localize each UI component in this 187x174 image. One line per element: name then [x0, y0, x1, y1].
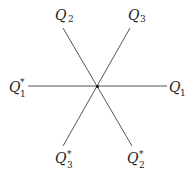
- svg-text:Q: Q: [127, 150, 139, 166]
- label-q2: Q 2: [55, 7, 74, 24]
- svg-text:2: 2: [139, 160, 145, 170]
- label-q3: Q 3: [128, 7, 146, 24]
- svg-text:3: 3: [67, 160, 73, 170]
- vector-diagram: Q * 1 Q 1 Q 2 Q 3 Q * 3 Q * 2: [0, 0, 187, 174]
- svg-text:*: *: [67, 149, 72, 159]
- svg-text:Q: Q: [55, 150, 67, 166]
- svg-text:Q: Q: [128, 7, 140, 23]
- label-q1: Q 1: [169, 79, 186, 98]
- label-q3-star: Q * 3: [55, 149, 73, 170]
- svg-text:1: 1: [180, 88, 186, 98]
- svg-text:3: 3: [140, 14, 146, 24]
- center-point: [96, 85, 99, 88]
- label-q1-star: Q * 1: [9, 77, 26, 99]
- label-q2-star: Q * 2: [127, 149, 145, 170]
- svg-text:1: 1: [20, 89, 26, 99]
- svg-text:*: *: [20, 77, 25, 87]
- svg-text:*: *: [139, 149, 144, 159]
- svg-text:Q: Q: [55, 7, 67, 23]
- svg-text:2: 2: [68, 14, 74, 24]
